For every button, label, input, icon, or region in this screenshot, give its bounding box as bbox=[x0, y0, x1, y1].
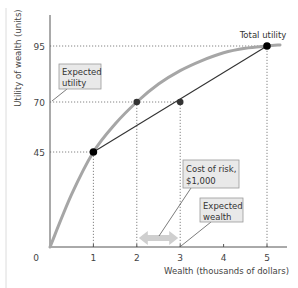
svg-text:Expected: Expected bbox=[62, 67, 102, 77]
x-tick-label: 1 bbox=[91, 253, 97, 263]
y-axis-title: Utility of wealth (units) bbox=[13, 9, 23, 106]
y-tick-labels: 457095 bbox=[34, 42, 46, 158]
x-tick-label: 0 bbox=[33, 253, 39, 263]
svg-text:$1,000: $1,000 bbox=[186, 176, 216, 186]
x-tick-label: 4 bbox=[221, 253, 227, 263]
x-tick-label: 3 bbox=[177, 253, 183, 263]
data-point bbox=[90, 148, 98, 156]
callout-expected-utility: Expected utility bbox=[52, 64, 102, 101]
x-axis-title: Wealth (thousands of dollars) bbox=[164, 266, 289, 276]
data-point bbox=[134, 99, 141, 106]
svg-text:Cost of risk,: Cost of risk, bbox=[186, 164, 236, 174]
chart: Utility of wealth (units) Expected utili… bbox=[0, 0, 298, 288]
x-tick-labels: 012345 bbox=[33, 253, 270, 263]
callout-expected-wealth: Expected wealth bbox=[181, 198, 243, 246]
y-tick-label: 70 bbox=[34, 98, 46, 108]
data-point bbox=[177, 99, 184, 106]
svg-text:wealth: wealth bbox=[203, 212, 231, 222]
x-tick-label: 5 bbox=[264, 253, 270, 263]
svg-text:Expected: Expected bbox=[203, 201, 243, 211]
y-tick-label: 95 bbox=[34, 42, 45, 52]
total-utility-label: Total utility bbox=[239, 30, 287, 40]
x-tick-label: 2 bbox=[134, 253, 140, 263]
y-tick-label: 45 bbox=[34, 148, 45, 158]
cost-of-risk-arrow bbox=[139, 231, 178, 245]
data-point bbox=[263, 42, 271, 50]
svg-text:utility: utility bbox=[62, 78, 86, 88]
